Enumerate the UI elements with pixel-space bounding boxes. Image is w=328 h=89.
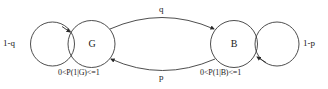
diagram-canvas — [0, 0, 328, 89]
transition-label-p: p — [159, 73, 164, 82]
state-transition-diagram: G B 1-q 1-p q p 0<P(1|G)<=1 0<P(1|B)<=1 — [0, 0, 328, 89]
state-label-g: G — [82, 39, 102, 49]
transition-arc-g-to-b — [110, 18, 214, 30]
state-label-b: B — [224, 39, 244, 49]
self-loop-b-arrow — [257, 57, 266, 63]
condition-label-g: 0<P(1|G)<=1 — [58, 69, 100, 77]
transition-label-q: q — [159, 5, 164, 14]
self-loop-label-g: 1-q — [3, 39, 15, 48]
self-loop-label-b: 1-p — [303, 39, 315, 48]
condition-label-b: 0<P(1|B)<=1 — [200, 69, 241, 77]
